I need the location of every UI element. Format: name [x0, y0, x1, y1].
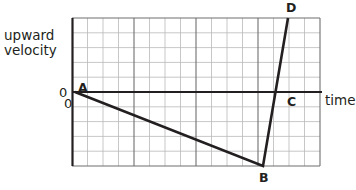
x-axis-label: time: [325, 93, 356, 108]
point-label-d: D: [286, 2, 296, 15]
horizontal-axis-origin-label: 0: [64, 97, 72, 110]
point-label-a: A: [78, 82, 88, 95]
point-label-c: C: [287, 96, 296, 109]
point-label-b: B: [259, 172, 269, 185]
velocity-time-graph-figure: upward velocity time 0 0 A B C D: [0, 0, 356, 190]
y-axis-label: upward velocity: [4, 28, 66, 58]
